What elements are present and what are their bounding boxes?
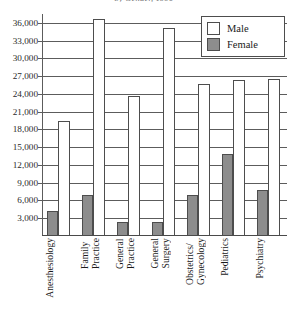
bar-female — [82, 195, 94, 236]
x-axis-category-labels: AnesthesiologyFamilyPracticeGeneralPract… — [42, 238, 287, 336]
x-axis-category-label: Psychiatry — [255, 238, 288, 334]
bar-female — [187, 195, 199, 236]
x-axis-category-label: Obstetrics/Gynecology — [185, 238, 220, 334]
y-axis-tick-label: 21,000 — [13, 107, 38, 116]
y-axis-tick-label: 15,000 — [13, 143, 38, 152]
x-axis-category-label: Pediatrics — [220, 238, 255, 334]
bar-chart: by Gender, 1990 3,0006,0009,00012,00015,… — [0, 0, 288, 336]
bar-male — [128, 96, 140, 236]
y-axis-tick-labels: 3,0006,0009,00012,00015,00018,00021,0002… — [0, 0, 41, 240]
legend-swatch-male-icon — [207, 22, 220, 35]
y-axis-tick-label: 9,000 — [17, 178, 38, 187]
x-axis-category-label: FamilyPractice — [80, 238, 115, 334]
bar-female — [222, 154, 234, 236]
bar-female — [117, 222, 129, 236]
y-axis-tick-label: 12,000 — [13, 160, 38, 169]
legend-label-male: Male — [227, 23, 249, 34]
y-axis-tick-label: 30,000 — [13, 54, 38, 63]
legend: Male Female — [201, 16, 285, 57]
legend-item-female: Female — [207, 36, 280, 52]
y-axis-tick-label: 6,000 — [17, 196, 38, 205]
y-axis-tick-label: 24,000 — [13, 89, 38, 98]
bar-female — [47, 211, 59, 236]
legend-label-female: Female — [227, 39, 258, 50]
bar-male — [163, 28, 175, 236]
y-axis-tick-label: 36,000 — [13, 18, 38, 27]
bar-male — [233, 80, 245, 236]
y-axis-tick-label: 33,000 — [13, 36, 38, 45]
x-axis-line — [42, 235, 287, 236]
bar-male — [268, 79, 280, 236]
legend-item-male: Male — [207, 20, 280, 36]
x-axis-category-label: Anesthesiology — [45, 238, 80, 334]
bar-male — [198, 84, 210, 236]
y-axis-tick-label: 3,000 — [17, 214, 38, 223]
bar-male — [58, 121, 70, 236]
y-axis-tick-label: 18,000 — [13, 125, 38, 134]
x-axis-category-label: GeneralPractice — [115, 238, 150, 334]
bar-female — [152, 222, 164, 236]
chart-title: by Gender, 1990 — [0, 0, 288, 2]
legend-swatch-female-icon — [207, 38, 220, 51]
bar-female — [257, 190, 269, 236]
y-axis-tick-label: 27,000 — [13, 72, 38, 81]
x-axis-category-label: GeneralSurgery — [150, 238, 185, 334]
bar-male — [93, 19, 105, 236]
